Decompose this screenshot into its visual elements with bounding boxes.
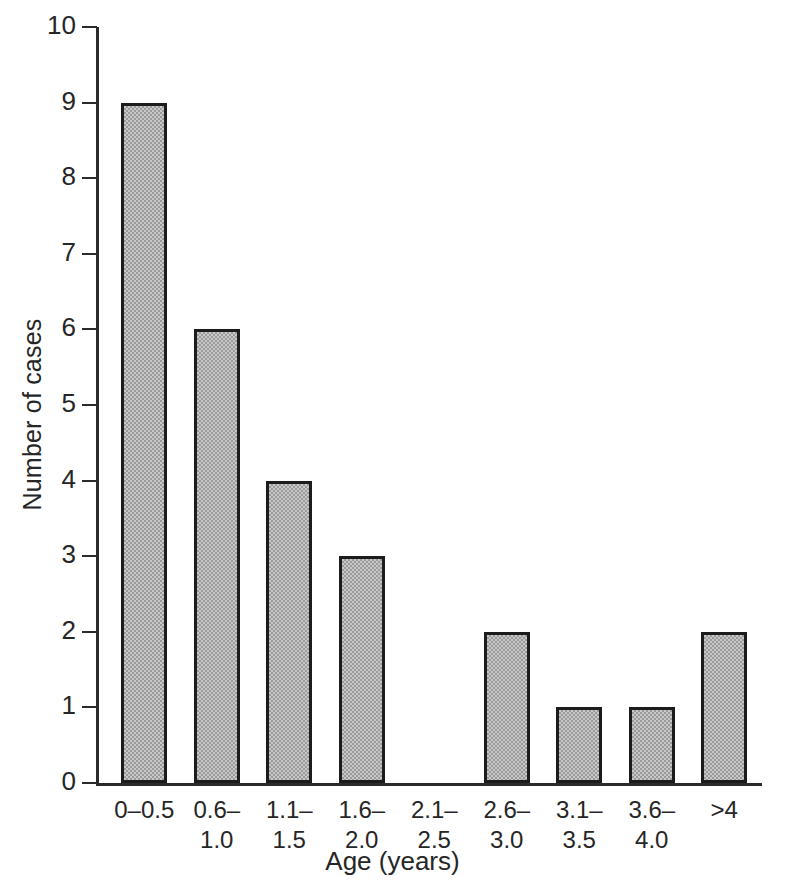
bar <box>701 632 747 783</box>
x-axis-line <box>96 783 762 786</box>
y-tick-label: 3 <box>34 541 76 567</box>
y-tick-label: 7 <box>34 239 76 265</box>
y-tick-label: 0 <box>34 768 76 794</box>
bar <box>121 103 167 783</box>
y-tick-mark <box>82 555 97 557</box>
y-tick-mark <box>82 26 97 28</box>
y-tick-mark <box>82 706 97 708</box>
y-tick-mark <box>82 782 97 784</box>
y-tick-label: 6 <box>34 314 76 340</box>
y-tick-mark <box>82 404 97 406</box>
x-axis-title: Age (years) <box>0 846 785 877</box>
y-tick-label: 1 <box>34 692 76 718</box>
x-tick-label: 0–0.5 <box>108 795 181 825</box>
y-tick-mark <box>82 328 97 330</box>
y-tick-label: 10 <box>34 12 76 38</box>
bar <box>484 632 530 783</box>
plot-area <box>98 27 762 783</box>
y-tick-label: 4 <box>34 466 76 492</box>
bar <box>266 481 312 783</box>
y-tick-mark <box>82 631 97 633</box>
y-tick-mark <box>82 480 97 482</box>
y-tick-mark <box>82 102 97 104</box>
bar <box>339 556 385 783</box>
y-tick-label: 9 <box>34 88 76 114</box>
bar-chart-figure: Number of cases 109876543210 0–0.50.6–1.… <box>0 0 785 888</box>
bar <box>629 707 675 783</box>
x-tick-label: >4 <box>688 795 761 825</box>
y-tick-label: 8 <box>34 163 76 189</box>
y-tick-mark <box>82 177 97 179</box>
y-tick-label: 2 <box>34 617 76 643</box>
y-tick-label: 5 <box>34 390 76 416</box>
bar <box>556 707 602 783</box>
y-tick-mark <box>82 253 97 255</box>
bar <box>194 329 240 783</box>
